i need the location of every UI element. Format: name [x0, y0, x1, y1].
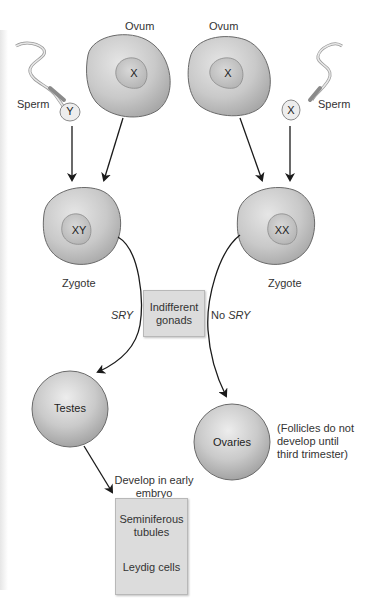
indifferent-gonads-line2: gonads [144, 314, 204, 327]
ovaries-note: (Follicles do not develop until third tr… [277, 422, 354, 461]
ovaries-label: Ovaries [202, 436, 262, 448]
seminiferous-tubules: Seminiferous tubules [116, 513, 187, 539]
sperm-left-label: Sperm [17, 98, 49, 111]
zygote-xy-karyotype: XY [66, 224, 92, 236]
no-sry-gene: SRY [228, 309, 250, 321]
sperm-right-chromosome: X [281, 104, 301, 116]
ovaries-note-line3: third trimester) [277, 448, 354, 461]
sry-gene: SRY [111, 309, 133, 321]
ovaries-note-line1: (Follicles do not [277, 422, 354, 435]
leydig-cells: Leydig cells [116, 561, 187, 574]
seminiferous-line2: tubules [116, 526, 187, 539]
no-sry-prefix: No [211, 309, 228, 321]
sry-label: SRY [111, 309, 133, 322]
indifferent-gonads-line1: Indifferent [144, 301, 204, 314]
zygote-xx-karyotype: XX [269, 224, 295, 236]
sperm-right-label: Sperm [318, 98, 350, 111]
zygote-xy-label: Zygote [62, 277, 96, 290]
arrow-ovum-right [240, 118, 262, 180]
indifferent-gonads-box: Indifferent gonads [143, 290, 205, 337]
testes-label: Testes [40, 402, 100, 414]
ovaries-note-line2: develop until [277, 435, 354, 448]
arrow-testes-development [84, 446, 112, 492]
ovum-left-chromosome: X [124, 67, 144, 79]
ovum-left-label: Ovum [125, 20, 154, 33]
seminiferous-line1: Seminiferous [116, 513, 187, 526]
ovum-right-label: Ovum [209, 20, 238, 33]
testes-structures-box: Seminiferous tubules Leydig cells [115, 498, 188, 595]
sperm-left-chromosome: Y [60, 105, 80, 117]
develop-caption-line1: Develop in early [114, 474, 194, 487]
ovum-right-chromosome: X [218, 67, 238, 79]
no-sry-label: No SRY [211, 309, 250, 322]
arrow-ovum-left [104, 118, 123, 180]
zygote-xx-label: Zygote [268, 277, 302, 290]
develop-caption: Develop in early embryo [114, 474, 194, 500]
